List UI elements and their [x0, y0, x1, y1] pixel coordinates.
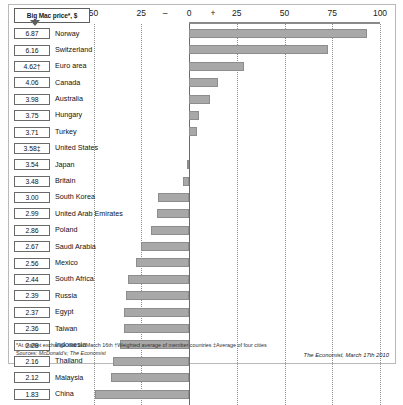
- price-value: 2.86: [14, 225, 50, 236]
- footnote-line-1: *At market exchange rate on March 16th †…: [16, 342, 346, 350]
- valuation-bar: [136, 258, 189, 267]
- country-label: Euro area: [55, 61, 87, 70]
- country-label: Turkey: [55, 127, 77, 136]
- price-value: 6.16: [14, 45, 50, 56]
- price-value: 2.39: [14, 290, 50, 301]
- valuation-bar: [157, 209, 189, 218]
- price-value: 2.44: [14, 274, 50, 285]
- valuation-bar: [126, 291, 189, 300]
- chart-row: 3.98Australia: [0, 92, 403, 108]
- country-label: Malaysia: [55, 373, 83, 382]
- price-value: 3.98: [14, 94, 50, 105]
- valuation-bar: [128, 275, 189, 284]
- country-label: Egypt: [55, 307, 73, 316]
- country-label: Russia: [55, 291, 77, 300]
- price-value: 3.00: [14, 192, 50, 203]
- country-label: Switzerland: [55, 45, 92, 54]
- country-label: United Arab Emirates: [55, 209, 123, 218]
- valuation-bar: [189, 111, 199, 120]
- country-label: Thailand: [55, 356, 83, 365]
- price-value: 3.48: [14, 176, 50, 187]
- price-value: 2.16: [14, 356, 50, 367]
- country-label: Britain: [55, 176, 75, 185]
- valuation-bar: [113, 357, 189, 366]
- valuation-bar: [189, 45, 328, 54]
- price-value: 4.06: [14, 77, 50, 88]
- x-tick-label-–: –: [163, 8, 168, 18]
- x-tick-label-0: 0: [187, 8, 192, 18]
- country-label: Poland: [55, 225, 77, 234]
- chart-row: 2.39Russia: [0, 288, 403, 304]
- chart-row: 4.06Canada: [0, 75, 403, 91]
- price-value: 2.99: [14, 208, 50, 219]
- x-tick-label-50: 50: [89, 8, 98, 18]
- chart-row: 3.75Hungary: [0, 108, 403, 124]
- chart-row: 3.71Turkey: [0, 124, 403, 140]
- valuation-bar: [189, 29, 367, 38]
- footnote-sources: Sources: McDonald's; The Economist: [16, 350, 346, 358]
- country-label: Saudi Arabia: [55, 242, 96, 251]
- x-tick-label-25: 25: [137, 8, 146, 18]
- country-label: South Korea: [55, 192, 95, 201]
- x-tick-label-50: 50: [280, 8, 289, 18]
- price-value: 2.56: [14, 258, 50, 269]
- price-value: 3.54: [14, 159, 50, 170]
- price-value: 3.75: [14, 110, 50, 121]
- price-value: 2.37: [14, 307, 50, 318]
- chart-row: 3.58‡United States: [0, 141, 403, 157]
- chart-row: 3.00South Korea: [0, 190, 403, 206]
- valuation-bar: [189, 95, 210, 104]
- valuation-bar: [151, 226, 189, 235]
- x-tick-label-25: 25: [232, 8, 241, 18]
- sources-prefix: Sources:: [16, 350, 39, 356]
- valuation-bar: [141, 242, 189, 251]
- country-label: United States: [55, 143, 98, 152]
- price-value: 4.62†: [14, 61, 50, 72]
- country-label: Australia: [55, 94, 83, 103]
- chart-row: 4.62†Euro area: [0, 59, 403, 75]
- price-column-header: Big Mac price*, $: [14, 8, 90, 23]
- country-label: South Africa: [55, 274, 94, 283]
- x-tick-label-100: 100: [373, 8, 387, 18]
- chart-row: 2.99United Arab Emirates: [0, 206, 403, 222]
- price-value: 2.12: [14, 372, 50, 383]
- country-label: Canada: [55, 78, 80, 87]
- valuation-bar: [95, 390, 189, 399]
- chart-row: 2.12Malaysia: [0, 370, 403, 386]
- country-label: Japan: [55, 160, 75, 169]
- valuation-bar: [183, 177, 189, 186]
- price-value: 3.71: [14, 127, 50, 138]
- valuation-bar: [158, 193, 189, 202]
- chart-row: 2.67Saudi Arabia: [0, 239, 403, 255]
- price-value: 1.83: [14, 389, 50, 400]
- chart-row: 3.54Japan: [0, 157, 403, 173]
- chart-row: 2.37Egypt: [0, 305, 403, 321]
- valuation-bar: [189, 127, 197, 136]
- x-tick-label-+: +: [210, 8, 215, 18]
- chart-row: 1.83China: [0, 387, 403, 403]
- x-axis-rule: [189, 22, 380, 24]
- price-value: 3.58‡: [14, 143, 50, 154]
- price-value: 6.87: [14, 28, 50, 39]
- publication-credit: The Economist, March 17th 2010: [304, 352, 389, 358]
- chart-row: 6.16Switzerland: [0, 42, 403, 58]
- chart-row: 2.56Mexico: [0, 255, 403, 271]
- valuation-bar: [189, 62, 244, 71]
- price-value: 2.67: [14, 241, 50, 252]
- country-label: Mexico: [55, 258, 78, 267]
- country-label: Hungary: [55, 110, 82, 119]
- chart-row: 3.48Britain: [0, 174, 403, 190]
- chart-row: 2.44South Africa: [0, 272, 403, 288]
- country-label: Taiwan: [55, 324, 77, 333]
- chart-row: 2.86Poland: [0, 223, 403, 239]
- x-tick-label-75: 75: [328, 8, 337, 18]
- chart-row: 2.36Taiwan: [0, 321, 403, 337]
- country-label: Norway: [55, 29, 79, 38]
- valuation-bar: [111, 373, 189, 382]
- valuation-bar: [124, 324, 189, 333]
- price-header-pointer: [30, 20, 40, 26]
- footnotes: *At market exchange rate on March 16th †…: [16, 342, 346, 357]
- sources-value: McDonald's; The Economist: [39, 350, 106, 356]
- price-value: 2.36: [14, 323, 50, 334]
